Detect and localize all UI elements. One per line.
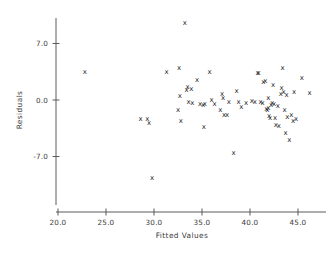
- x-axis-tick-label: 20.0: [50, 218, 67, 227]
- data-point-marker: x: [83, 68, 87, 76]
- data-point-marker: x: [225, 111, 229, 119]
- data-point-marker: x: [292, 88, 296, 96]
- data-point-marker: x: [277, 122, 281, 130]
- data-point-marker: x: [190, 99, 194, 107]
- data-point-marker: x: [300, 74, 304, 82]
- plot-canvas: 7.00.0-7.0 20.025.030.035.040.045.0 xxxx…: [0, 0, 336, 256]
- x-axis: 20.025.030.035.040.045.0: [50, 209, 326, 228]
- data-point-marker: x: [234, 87, 238, 95]
- data-point-marker: x: [212, 100, 216, 108]
- y-axis-title: Residuals: [15, 91, 24, 130]
- data-point-marker: x: [195, 76, 199, 84]
- data-point-marker: x: [253, 98, 257, 106]
- y-axis-tick-label: -7.0: [33, 152, 48, 161]
- data-point-marker: x: [189, 85, 193, 93]
- data-point-marker: x: [176, 106, 180, 114]
- data-point-marker: x: [150, 174, 154, 182]
- data-point-marker: x: [236, 98, 240, 106]
- data-point-marker: x: [307, 89, 311, 97]
- data-point-marker: x: [257, 69, 261, 77]
- data-point-marker: x: [147, 119, 151, 127]
- x-axis-title: Fitted Values: [156, 231, 209, 240]
- x-axis-tick-label: 35.0: [194, 218, 211, 227]
- data-point-marker: x: [284, 91, 288, 99]
- data-point-marker: x: [227, 98, 231, 106]
- data-point-marker: x: [178, 92, 182, 100]
- data-point-marker: x: [138, 115, 142, 123]
- data-point-marker: x: [164, 68, 168, 76]
- data-point-marker: x: [208, 68, 212, 76]
- data-point-marker: x: [203, 100, 207, 108]
- data-point-marker: x: [244, 99, 248, 107]
- x-axis-tick-label: 30.0: [146, 218, 163, 227]
- data-point-marker: x: [285, 113, 289, 121]
- data-point-marker: x: [263, 77, 267, 85]
- data-point-marker: x: [198, 100, 202, 108]
- data-point-marker: x: [221, 94, 225, 102]
- data-point-marker: x: [179, 117, 183, 125]
- data-points-layer: xxxxxxxxxxxxxxxxxxxxxxxxxxxxxxxxxxxxxxxx…: [83, 19, 312, 183]
- data-point-marker: x: [183, 19, 187, 27]
- data-point-marker: x: [281, 64, 285, 72]
- data-point-marker: x: [268, 114, 272, 122]
- y-axis: 7.00.0-7.0: [33, 18, 59, 205]
- x-axis-tick-label: 25.0: [98, 218, 115, 227]
- data-point-marker: x: [271, 81, 275, 89]
- data-point-marker: x: [177, 64, 181, 72]
- y-axis-tick-label: 7.0: [36, 39, 48, 48]
- data-point-marker: x: [202, 123, 206, 131]
- scatter-plot-figure: 7.00.0-7.0 20.025.030.035.040.045.0 xxxx…: [0, 0, 336, 256]
- data-point-marker: x: [276, 102, 280, 110]
- x-axis-tick-label: 40.0: [242, 218, 259, 227]
- data-point-marker: x: [232, 149, 236, 157]
- y-axis-tick-label: 0.0: [36, 96, 48, 105]
- data-point-marker: x: [294, 115, 298, 123]
- x-axis-tick-label: 45.0: [290, 218, 307, 227]
- data-point-marker: x: [287, 136, 291, 144]
